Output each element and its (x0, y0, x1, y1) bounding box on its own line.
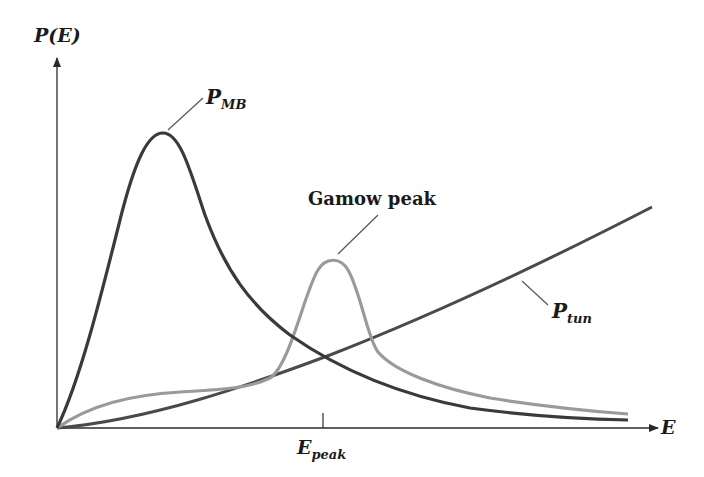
gamow-peak-diagram: P(E) E PMB Gamow peak Ptun Epeak (0, 0, 704, 477)
p-tun-label-sub: tun (567, 311, 592, 326)
e-peak-label-sub: peak (311, 447, 346, 462)
p-tun-label-main: P (551, 299, 568, 323)
p-mb-label-sub: MB (220, 97, 246, 112)
x-axis-label: E (660, 416, 676, 438)
e-peak-label: Epeak (296, 436, 346, 462)
p-mb-curve (57, 133, 628, 428)
p-tun-label: Ptun (551, 299, 592, 326)
p-tun-leader-line (522, 281, 548, 305)
y-axis-label: P(E) (33, 24, 81, 46)
p-mb-leader-line (168, 98, 203, 130)
gamow-leader-line (338, 215, 378, 254)
e-peak-label-main: E (296, 436, 312, 458)
gamow-peak-label: Gamow peak (308, 188, 437, 209)
gamow-peak-curve (57, 260, 628, 428)
p-mb-label: PMB (205, 85, 246, 112)
p-mb-label-main: P (205, 85, 222, 109)
